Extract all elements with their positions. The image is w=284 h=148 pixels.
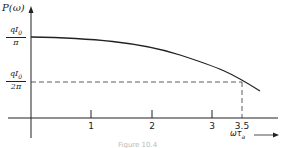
x-tick-label-1: 1	[88, 121, 94, 131]
x-label-arrow-icon	[273, 133, 279, 138]
x-tick-label-2: 2	[149, 121, 155, 131]
y-axis-label: P(ω)	[2, 3, 25, 13]
y-axis-arrow-icon	[29, 6, 34, 13]
curve-P-omega	[31, 37, 260, 91]
y-label-top: qI0 π	[6, 26, 26, 47]
x-tick-label-3: 3	[209, 121, 215, 131]
x-axis-label: ωτa	[230, 130, 245, 140]
figure-caption: Figure 10.4	[118, 141, 157, 148]
y-label-half: qI0 2π	[6, 70, 26, 91]
